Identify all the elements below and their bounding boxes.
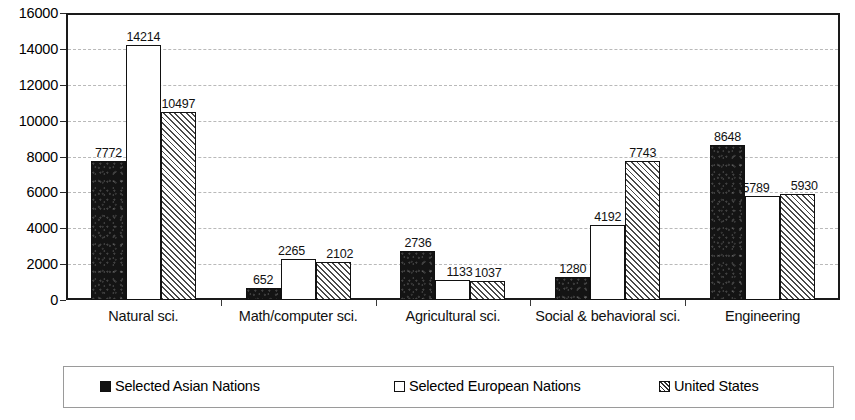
bar: 14214 [126, 45, 161, 300]
chart-legend: Selected Asian NationsSelected European … [63, 366, 834, 408]
bar-group: 128041927743 [530, 13, 685, 300]
bar-value-label: 2736 [404, 237, 431, 250]
bar-value-label: 2265 [278, 245, 305, 258]
legend-item[interactable]: Selected European Nations [394, 377, 581, 395]
bar-value-label: 7743 [629, 147, 656, 160]
bar: 4192 [590, 225, 625, 300]
bars-layer: 7772142141049765222652102273611331037128… [66, 13, 840, 300]
bar-chart: 0200040006000800010000120001400016000 77… [0, 0, 855, 420]
bar-value-label: 7772 [95, 147, 122, 160]
x-axis-tick [685, 300, 686, 306]
x-axis-category-label: Natural sci. [66, 307, 221, 326]
y-tick-label: 8000 [0, 150, 58, 164]
bar-value-label: 1280 [559, 263, 586, 276]
bar-group: 864857895930 [685, 13, 840, 300]
bar-value-label: 5930 [791, 180, 818, 193]
bar: 2736 [400, 251, 435, 300]
bar-group: 65222652102 [221, 13, 376, 300]
y-tick-label: 4000 [0, 221, 58, 235]
bar-value-label: 652 [253, 274, 273, 287]
x-axis-category-label: Agricultural sci. [376, 307, 531, 326]
x-axis-category-label: Social & behavioral sci. [530, 307, 685, 326]
bar: 652 [246, 288, 281, 300]
bar-group: 77721421410497 [66, 13, 221, 300]
y-tick-label: 0 [0, 293, 58, 307]
legend-item[interactable]: Selected Asian Nations [100, 377, 260, 395]
y-tick-label: 16000 [0, 6, 58, 20]
bar-group: 273611331037 [376, 13, 531, 300]
bar: 5930 [780, 194, 815, 300]
legend-swatch-icon [394, 381, 405, 392]
y-tick-label: 12000 [0, 78, 58, 92]
bar: 1133 [435, 280, 470, 300]
bar: 5789 [745, 196, 780, 300]
bar: 7743 [625, 161, 660, 300]
bar: 8648 [710, 145, 745, 300]
y-tick-label: 14000 [0, 42, 58, 56]
x-axis-category-labels: Natural sci.Math/computer sci.Agricultur… [66, 307, 840, 357]
bar-value-label: 14214 [127, 31, 161, 44]
legend-item[interactable]: United States [659, 377, 758, 395]
bar-value-label: 10497 [162, 98, 196, 111]
y-tick-label: 6000 [0, 185, 58, 199]
x-axis-category-label: Math/computer sci. [221, 307, 376, 326]
legend-swatch-icon [659, 381, 670, 392]
bar-value-label: 5789 [742, 182, 769, 195]
y-tick-mark [60, 300, 66, 301]
bar-value-label: 1133 [447, 266, 473, 279]
bar-value-label: 2102 [326, 248, 353, 261]
bar-value-label: 4192 [594, 211, 621, 224]
bar: 2265 [281, 259, 316, 300]
x-axis-tick [530, 300, 531, 306]
bar: 2102 [316, 262, 351, 300]
x-axis-category-label: Engineering [685, 307, 840, 326]
legend-label: Selected Asian Nations [115, 377, 260, 395]
bar-value-label: 8648 [714, 131, 741, 144]
x-axis-tick [221, 300, 222, 306]
x-axis-tick [376, 300, 377, 306]
y-tick-label: 10000 [0, 114, 58, 128]
bar: 1037 [470, 281, 505, 300]
y-axis: 0200040006000800010000120001400016000 [0, 13, 58, 300]
y-tick-label: 2000 [0, 257, 58, 271]
legend-label: Selected European Nations [409, 377, 581, 395]
bar: 7772 [91, 161, 126, 300]
legend-label: United States [674, 377, 758, 395]
bar: 10497 [161, 112, 196, 300]
legend-swatch-icon [100, 381, 111, 392]
bar-value-label: 1037 [474, 267, 501, 280]
bar: 1280 [555, 277, 590, 300]
